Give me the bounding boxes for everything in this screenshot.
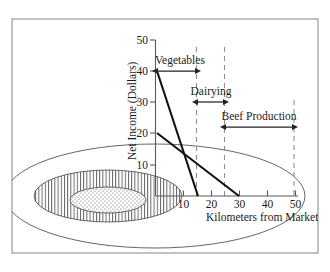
x-tick-label-10: 10 (178, 198, 190, 210)
x-tick-label-20: 20 (206, 198, 218, 210)
zone-label-dairying: Dairying (191, 85, 232, 98)
y-tick-label-30: 30 (137, 96, 149, 108)
von-thunen-diagram: 50 40 30 20 10 10 20 30 40 50 Net Income… (0, 0, 330, 272)
y-tick-label-50: 50 (137, 34, 149, 46)
figure-container: 50 40 30 20 10 10 20 30 40 50 Net Income… (0, 0, 330, 272)
y-axis-title: Net Income (Dollars) (126, 61, 139, 160)
y-tick-label-10: 10 (137, 159, 149, 171)
zone-label-vegetables: Vegetables (155, 54, 205, 67)
x-axis-title: Kilometers from Market (206, 211, 319, 223)
zone-label-beef-production: Beef Production (221, 110, 296, 122)
x-tick-label-50: 50 (290, 198, 302, 210)
y-tick-label-20: 20 (137, 127, 149, 139)
inner-stippled-core (70, 187, 146, 213)
x-tick-label-30: 30 (234, 198, 246, 210)
y-tick-label-40: 40 (137, 65, 149, 77)
x-tick-label-40: 40 (262, 198, 274, 210)
